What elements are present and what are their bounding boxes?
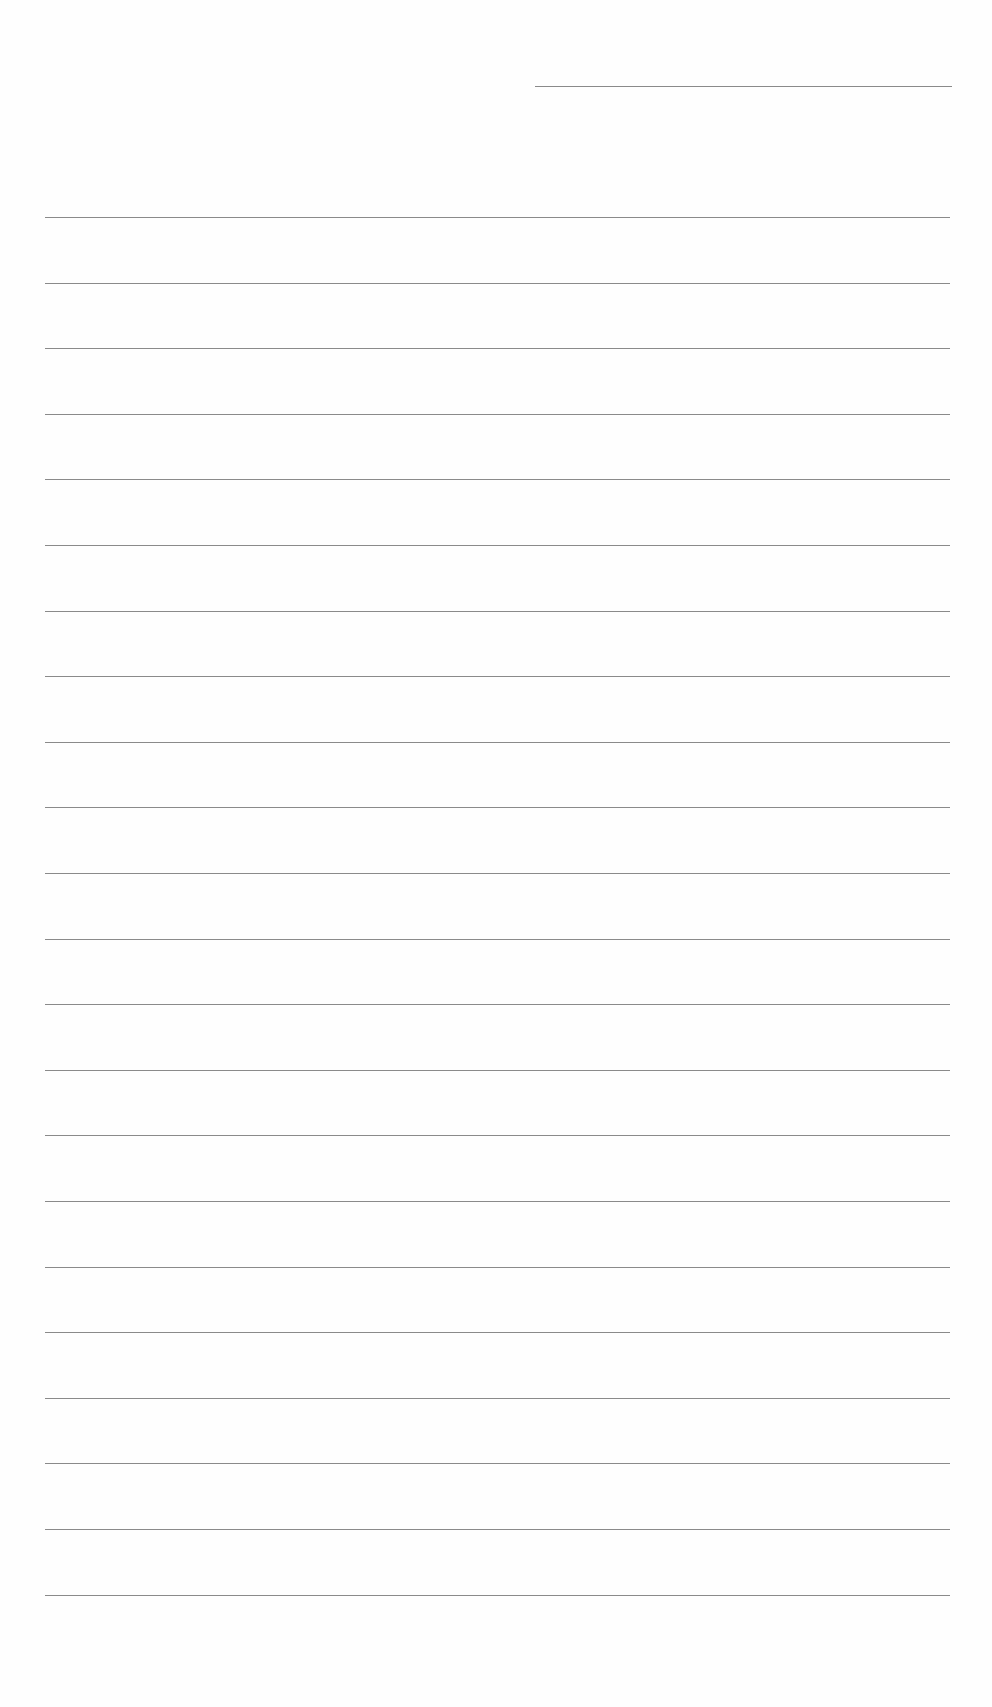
ruled-line <box>45 1070 950 1071</box>
ruled-line <box>45 1332 950 1333</box>
ruled-line <box>45 1135 950 1136</box>
ruled-line <box>45 1004 950 1005</box>
ruled-line <box>45 414 950 415</box>
lined-paper-sheet <box>0 0 992 1707</box>
ruled-line <box>45 479 950 480</box>
ruled-line <box>45 676 950 677</box>
ruled-line <box>45 545 950 546</box>
ruled-line <box>45 742 950 743</box>
ruled-line <box>45 1201 950 1202</box>
ruled-line <box>45 611 950 612</box>
ruled-line <box>45 939 950 940</box>
ruled-line <box>45 283 950 284</box>
ruled-line <box>45 807 950 808</box>
ruled-line <box>45 1529 950 1530</box>
ruled-line <box>45 1267 950 1268</box>
ruled-line <box>45 217 950 218</box>
ruled-line <box>45 1398 950 1399</box>
ruled-line <box>45 1595 950 1596</box>
ruled-line <box>45 1463 950 1464</box>
ruled-line <box>45 348 950 349</box>
header-name-line <box>535 86 952 87</box>
ruled-line <box>45 873 950 874</box>
